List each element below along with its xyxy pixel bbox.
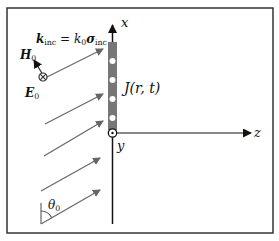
x-axis-label: x — [121, 16, 128, 29]
theta-sub: 0 — [55, 204, 60, 213]
e-field-label: E0 — [25, 87, 39, 101]
h-symbol: H — [20, 48, 31, 62]
sigma-inc: σ — [86, 32, 95, 46]
incident-ray — [41, 158, 100, 191]
sigma-inc-sub: inc — [95, 38, 107, 47]
k0-eq: = k — [56, 32, 81, 46]
incident-ray — [45, 49, 103, 78]
y-axis-label: y — [117, 139, 124, 152]
y-axis-dot — [111, 132, 113, 134]
incident-ray — [44, 121, 103, 156]
e-sub: 0 — [34, 92, 39, 101]
sheet-dot — [110, 115, 116, 121]
h-sub: 0 — [31, 54, 36, 63]
k-inc-sub: inc — [44, 38, 56, 47]
h-field-label: H0 — [20, 49, 36, 63]
sheet-dot — [110, 58, 116, 64]
incident-ray — [45, 94, 103, 124]
sheet-dot — [110, 96, 116, 102]
wave-vector-label: kinc = k0σinc — [36, 33, 107, 47]
z-axis-label: z — [254, 126, 261, 139]
current-density-label: J(r, t) — [124, 81, 160, 95]
sheet-dot — [110, 77, 116, 83]
angle-label: θ0 — [48, 199, 60, 213]
e-symbol: E — [25, 86, 34, 100]
